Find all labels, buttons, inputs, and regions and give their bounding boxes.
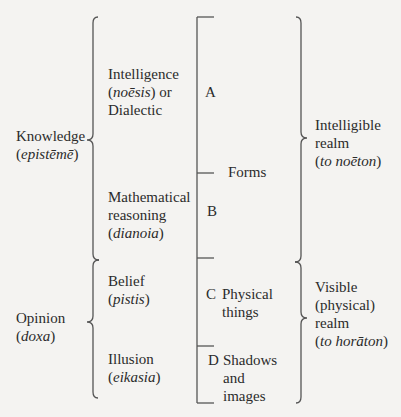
diagram-lines	[0, 0, 401, 417]
knowledge-brace	[87, 17, 99, 260]
visible-realm-label: Visible (physical) realm (to horāton)	[315, 278, 388, 350]
visible-brace	[295, 262, 307, 403]
segment-c: C Physical things	[206, 285, 273, 321]
opinion-brace	[87, 260, 99, 398]
knowledge-label: Knowledge (epistēmē)	[16, 127, 85, 163]
intelligible-brace	[295, 17, 307, 262]
faculty-illusion: Illusion (eikasia)	[108, 350, 161, 386]
segment-d: D Shadows and images	[208, 351, 277, 405]
faculty-intelligence: Intelligence (noēsis) or Dialectic	[108, 65, 179, 119]
intelligible-realm-label: Intelligible realm (to noēton)	[315, 116, 381, 170]
faculty-belief: Belief (pistis)	[108, 272, 150, 308]
segment-b-letter: B	[207, 202, 217, 220]
faculty-mathematical-reasoning: Mathematical reasoning (dianoia)	[108, 188, 190, 242]
opinion-label: Opinion (doxa)	[16, 309, 65, 345]
segment-a-letter: A	[205, 83, 216, 101]
forms-label: Forms	[228, 163, 266, 181]
